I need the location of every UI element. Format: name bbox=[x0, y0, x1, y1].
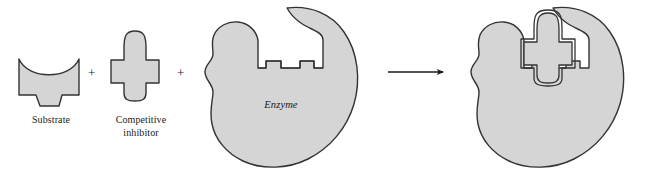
competitive-inhibition-diagram: + + Substrate Competitiveinhibitor Enzym… bbox=[0, 0, 649, 175]
substrate-shape-icon bbox=[19, 59, 79, 106]
inhibitor-label-line-1: Competitive bbox=[116, 114, 167, 125]
plus-operator-1: + bbox=[88, 66, 95, 79]
competitive-inhibitor-shape-icon bbox=[111, 31, 159, 101]
plus-operator-2: + bbox=[177, 66, 184, 79]
inhibitor-label-line-2: inhibitor bbox=[123, 127, 158, 138]
enzyme-inhibitor-complex-icon bbox=[471, 7, 624, 167]
substrate-label: Substrate bbox=[7, 114, 95, 127]
enzyme-label: Enzyme bbox=[238, 99, 324, 112]
diagram-canvas bbox=[0, 0, 649, 175]
enzyme-blob-icon bbox=[205, 7, 358, 167]
competitive-inhibitor-label: Competitiveinhibitor bbox=[96, 114, 186, 139]
